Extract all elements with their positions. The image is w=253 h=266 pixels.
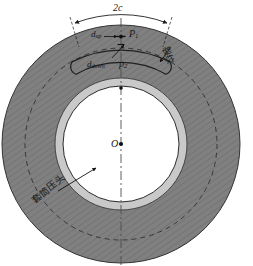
upper-point-dot [119,35,123,39]
schematic-diagram [0,0,253,266]
figure-container: 2c dup P1 ddown p2 O 裂纹 套筒压头 [0,0,253,266]
lower-point-dot [119,86,123,90]
center-dot [119,142,123,146]
